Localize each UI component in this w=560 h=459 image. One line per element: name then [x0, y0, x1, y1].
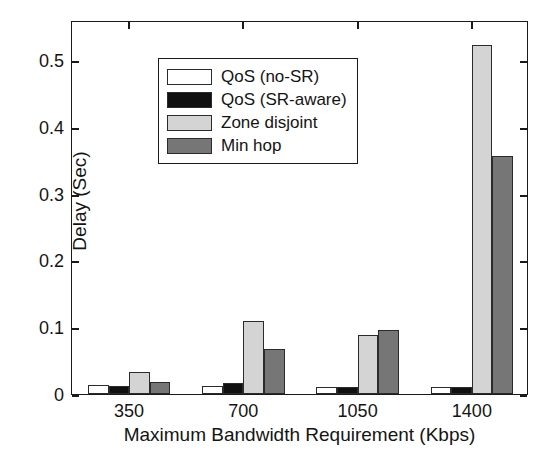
- legend-swatch: [167, 115, 212, 131]
- legend-item: Zone disjoint: [167, 111, 347, 134]
- x-axis-title: Maximum Bandwidth Requirement (Kbps): [71, 424, 528, 446]
- bar: [150, 382, 171, 394]
- x-tick-label: 1400: [428, 401, 516, 422]
- legend-swatch: [167, 69, 212, 85]
- legend-swatch: [167, 92, 212, 108]
- legend-item: QoS (SR-aware): [167, 88, 347, 111]
- legend-label: Zone disjoint: [221, 113, 317, 133]
- legend-item: QoS (no-SR): [167, 65, 347, 88]
- x-tick-label: 1050: [314, 401, 402, 422]
- y-tick-label: 0.1: [39, 318, 64, 339]
- y-tick-label: 0.4: [39, 118, 64, 139]
- x-tick-label: 700: [199, 401, 287, 422]
- y-tick-label: 0.3: [39, 185, 64, 206]
- y-tick-label: 0: [54, 385, 64, 406]
- bar: [337, 387, 358, 394]
- bar: [378, 330, 399, 394]
- bar: [202, 386, 223, 394]
- legend-label: QoS (SR-aware): [221, 90, 347, 110]
- bar: [492, 156, 513, 394]
- bar: [358, 335, 379, 394]
- bar: [264, 349, 285, 394]
- legend-label: QoS (no-SR): [221, 67, 319, 87]
- bar: [129, 372, 150, 394]
- bar: [431, 387, 452, 394]
- bar: [243, 321, 264, 394]
- bar: [472, 45, 493, 394]
- y-axis-title: Delay (Sec): [69, 11, 91, 391]
- y-tick-label: 0.5: [39, 51, 64, 72]
- plot-area: 00.10.20.30.40.5 35070010501400 QoS (no-…: [71, 21, 528, 395]
- y-tick-mark: [72, 395, 79, 397]
- bar: [223, 383, 244, 394]
- legend-swatch: [167, 138, 212, 154]
- x-tick-label: 350: [85, 401, 173, 422]
- y-tick-mark-right: [520, 395, 527, 397]
- bar: [109, 386, 130, 394]
- chart-figure: 00.10.20.30.40.5 35070010501400 QoS (no-…: [0, 0, 560, 459]
- chart-legend: QoS (no-SR)QoS (SR-aware)Zone disjointMi…: [158, 58, 358, 164]
- bar: [316, 387, 337, 394]
- y-tick-label: 0.2: [39, 251, 64, 272]
- legend-label: Min hop: [221, 136, 281, 156]
- legend-item: Min hop: [167, 134, 347, 157]
- bar: [451, 387, 472, 394]
- bar: [88, 385, 109, 394]
